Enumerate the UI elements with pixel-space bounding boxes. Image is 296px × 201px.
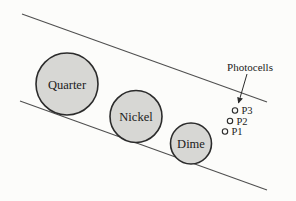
coin-quarter: Quarter	[36, 53, 98, 115]
coin-quarter-label: Quarter	[48, 78, 87, 92]
photocell-p1-label: P1	[232, 126, 243, 137]
photocells-caption: Photocells	[227, 61, 273, 73]
coin-dime-label: Dime	[177, 137, 205, 151]
photocell-p3-dot	[232, 108, 237, 113]
coin-nickel-label: Nickel	[119, 110, 153, 124]
photocells-arrow	[239, 74, 248, 103]
photocell-p2-dot	[227, 118, 232, 123]
coin-incline-diagram: Quarter Nickel Dime Photocells P3 P2 P1	[0, 0, 296, 201]
photocells-group: Photocells P3 P2 P1	[222, 61, 273, 138]
diagram-canvas: Quarter Nickel Dime Photocells P3 P2 P1	[0, 0, 296, 201]
photocell-p3-label: P3	[242, 105, 253, 116]
photocell-p1-dot	[222, 129, 227, 134]
coin-dime: Dime	[171, 123, 212, 164]
coin-nickel: Nickel	[110, 91, 162, 143]
photocell-p2-label: P2	[237, 116, 248, 127]
